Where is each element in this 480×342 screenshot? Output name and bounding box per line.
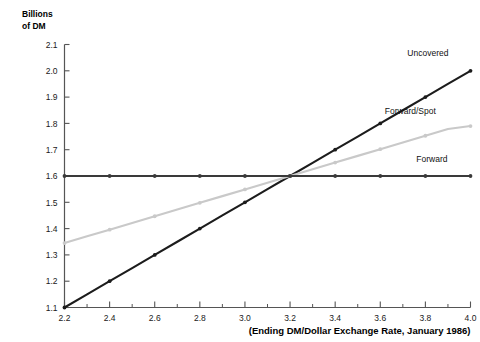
- x-axis-tick-label: 3.6: [374, 313, 386, 323]
- series-marker: [198, 201, 202, 205]
- series-marker: [243, 200, 247, 204]
- series-label-forward: Forward: [416, 154, 447, 164]
- series-marker: [198, 227, 202, 231]
- series-marker: [288, 174, 292, 178]
- series-marker: [108, 174, 112, 178]
- series-marker: [243, 174, 247, 178]
- series-marker: [333, 148, 337, 152]
- series-marker: [423, 174, 427, 178]
- y-axis-tick-label: 1.4: [46, 224, 58, 234]
- series-marker: [333, 161, 337, 165]
- y-axis-title-line1: Billions: [22, 9, 53, 19]
- x-axis-tick-label: 3.4: [329, 313, 341, 323]
- x-axis-tick-label: 2.4: [104, 313, 116, 323]
- x-axis-caption: (Ending DM/Dollar Exchange Rate, January…: [249, 325, 471, 336]
- x-axis-tick-label: 2.2: [59, 313, 71, 323]
- y-axis-tick-label: 1.2: [46, 276, 58, 286]
- series-marker: [333, 174, 337, 178]
- series-marker: [108, 228, 112, 232]
- y-axis-tick-label: 1.9: [46, 92, 58, 102]
- x-axis-tick-label: 3.0: [239, 313, 251, 323]
- x-axis-tick-label: 2.6: [149, 313, 161, 323]
- series-label-forward-spot: Forward/Spot: [385, 106, 437, 116]
- y-axis-tick-label: 1.1: [46, 303, 58, 313]
- series-line-forward-spot: [65, 126, 471, 243]
- series-marker: [108, 279, 112, 283]
- series-marker: [198, 174, 202, 178]
- y-axis-tick-label: 1.8: [46, 119, 58, 129]
- series-marker: [153, 174, 157, 178]
- series-marker: [469, 174, 473, 178]
- y-axis-tick-label: 1.7: [46, 145, 58, 155]
- series-marker: [63, 241, 67, 245]
- y-axis-tick-label: 1.3: [46, 250, 58, 260]
- series-marker: [423, 134, 427, 138]
- y-axis-tick-label: 2.0: [46, 66, 58, 76]
- series-marker: [243, 188, 247, 192]
- line-chart: 2.12.01.91.81.71.61.51.41.31.21.12.22.42…: [0, 0, 480, 342]
- series-marker: [378, 122, 382, 126]
- series-marker: [378, 147, 382, 151]
- x-axis-tick-label: 4.0: [465, 313, 477, 323]
- x-axis-tick-label: 2.8: [194, 313, 206, 323]
- series-marker: [63, 306, 67, 310]
- y-axis-tick-label: 1.5: [46, 198, 58, 208]
- series-label-uncovered: Uncovered: [407, 48, 448, 58]
- series-marker: [153, 214, 157, 218]
- series-marker: [378, 174, 382, 178]
- series-marker: [63, 174, 67, 178]
- y-axis-title-line2: of DM: [22, 21, 46, 31]
- y-axis-tick-label: 1.6: [46, 171, 58, 181]
- series-marker: [469, 69, 473, 73]
- x-axis-tick-label: 3.8: [419, 313, 431, 323]
- series-marker: [423, 95, 427, 99]
- series-marker: [469, 124, 473, 128]
- series-marker: [153, 253, 157, 257]
- chart-container: 2.12.01.91.81.71.61.51.41.31.21.12.22.42…: [0, 0, 480, 342]
- y-axis-tick-label: 2.1: [46, 40, 58, 50]
- x-axis-tick-label: 3.2: [284, 313, 296, 323]
